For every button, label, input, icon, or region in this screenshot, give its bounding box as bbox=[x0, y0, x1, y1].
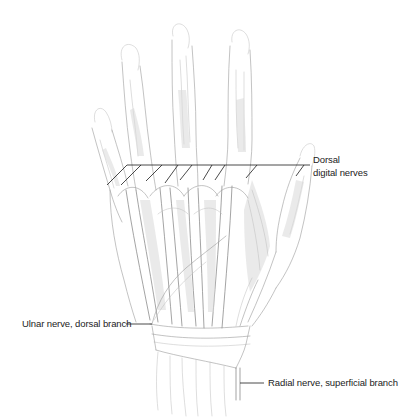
ring-finger bbox=[121, 44, 156, 190]
radial-nerve-label: Radial nerve, superficial branch bbox=[268, 377, 398, 390]
hand-drawing bbox=[0, 0, 400, 418]
dorsal-digital-nerves-label: Dorsal digital nerves bbox=[313, 154, 368, 179]
dorsal-digital-nerves-leader bbox=[107, 165, 310, 185]
ulnar-nerve-label: Ulnar nerve, dorsal branch bbox=[22, 318, 131, 331]
dorsal-digital-nerves-label-line1: Dorsal bbox=[313, 154, 368, 167]
hand-dorsum bbox=[110, 180, 276, 328]
hand-anatomy-illustration: Dorsal digital nerves Ulnar nerve, dorsa… bbox=[0, 0, 400, 418]
wrist bbox=[150, 324, 250, 416]
dorsal-digital-nerves-label-line2: digital nerves bbox=[313, 167, 368, 180]
middle-finger bbox=[172, 24, 198, 186]
little-finger bbox=[92, 108, 128, 222]
index-finger bbox=[224, 30, 252, 186]
